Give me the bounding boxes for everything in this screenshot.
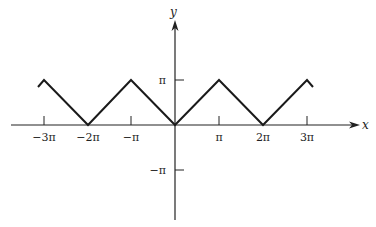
x-tick-label-pi: π <box>215 131 222 144</box>
y-tick-label-negpi: −π <box>150 164 166 177</box>
y-axis-label: y <box>169 5 177 19</box>
x-tick-label-3pi: 3π <box>300 131 314 144</box>
x-tick-label-neg3pi: −3π <box>32 131 55 144</box>
triangle-wave-plot: x y −3π −2π −π π 2π 3π π −π <box>0 0 376 227</box>
x-tick-label-neg2pi: −2π <box>76 131 99 144</box>
x-tick-label-2pi: 2π <box>256 131 270 144</box>
x-axis-label: x <box>362 118 369 132</box>
x-tick-label-negpi: −π <box>123 131 139 144</box>
y-tick-label-pi: π <box>159 74 166 87</box>
